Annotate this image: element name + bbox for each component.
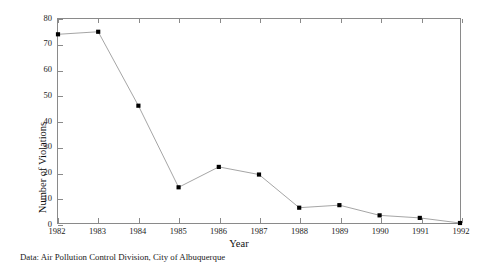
- x-axis-tick-label: 1990: [372, 227, 389, 236]
- x-axis-tick-mark-top: [220, 19, 221, 23]
- x-axis-tick-mark: [300, 218, 301, 223]
- x-axis-tick-mark: [422, 218, 423, 223]
- x-axis-tick-label: 1991: [412, 227, 429, 236]
- x-axis-tick-mark: [98, 218, 99, 223]
- data-point-marker: [177, 185, 181, 189]
- plot-frame: [57, 18, 461, 224]
- x-axis-tick-mark: [179, 218, 180, 223]
- y-axis-title: Number of Violations: [37, 98, 48, 238]
- x-axis-tick-mark-top: [422, 19, 423, 23]
- y-axis-tick-mark: [58, 122, 63, 123]
- chart-figure: 01020304050607080 Number of Violations 1…: [0, 0, 478, 267]
- x-axis-tick-mark: [341, 218, 342, 223]
- x-axis-tick-mark-top: [462, 19, 463, 23]
- data-point-marker: [378, 213, 382, 217]
- y-axis-tick-label: 80: [44, 14, 53, 23]
- x-axis-tick-mark: [462, 218, 463, 223]
- x-axis-tick-mark: [260, 218, 261, 223]
- data-point-marker: [96, 30, 100, 34]
- x-axis-tick-label: 1983: [89, 227, 106, 236]
- data-point-marker: [257, 172, 261, 176]
- x-axis-tick-mark-top: [139, 19, 140, 23]
- y-axis-tick-mark: [58, 174, 63, 175]
- x-axis-tick-label: 1992: [453, 227, 470, 236]
- x-axis-tick-label: 1985: [170, 227, 187, 236]
- x-axis-tick-mark-top: [58, 19, 59, 23]
- x-axis-tick-mark: [139, 218, 140, 223]
- x-axis-tick-mark-top: [98, 19, 99, 23]
- data-series-line: [58, 19, 460, 223]
- data-point-marker: [337, 203, 341, 207]
- x-axis-tick-mark-top: [260, 19, 261, 23]
- y-axis-title-container: Number of Violations: [18, 50, 32, 180]
- y-axis-tick-mark: [58, 199, 63, 200]
- x-axis-title: Year: [0, 238, 478, 249]
- data-point-marker: [56, 32, 60, 36]
- x-axis-tick-mark: [381, 218, 382, 223]
- x-axis-tick-label: 1988: [291, 227, 308, 236]
- y-axis-tick-label: 60: [44, 65, 53, 74]
- y-axis-tick-mark: [58, 45, 63, 46]
- y-axis-tick-mark: [58, 96, 63, 97]
- plot-area: [58, 19, 460, 223]
- chart-caption: Data: Air Pollution Control Division, Ci…: [20, 252, 225, 262]
- y-axis-tick-mark: [58, 71, 63, 72]
- x-axis-tick-label: 1984: [129, 227, 146, 236]
- x-axis-tick-label: 1987: [251, 227, 268, 236]
- series-polyline: [58, 32, 460, 223]
- x-axis-tick-label: 1989: [331, 227, 348, 236]
- data-point-marker: [217, 165, 221, 169]
- x-axis-tick-mark-top: [179, 19, 180, 23]
- data-point-marker: [297, 206, 301, 210]
- x-axis-tick-mark-top: [300, 19, 301, 23]
- x-axis-tick-label: 1986: [210, 227, 227, 236]
- x-axis-tick-mark-top: [381, 19, 382, 23]
- x-axis-tick-mark-top: [341, 19, 342, 23]
- y-axis-tick-mark: [58, 148, 63, 149]
- x-axis-tick-label: 1982: [49, 227, 66, 236]
- data-point-marker: [136, 104, 140, 108]
- x-axis-tick-mark: [58, 218, 59, 223]
- x-axis-tick-mark: [220, 218, 221, 223]
- y-axis-tick-label: 70: [44, 39, 53, 48]
